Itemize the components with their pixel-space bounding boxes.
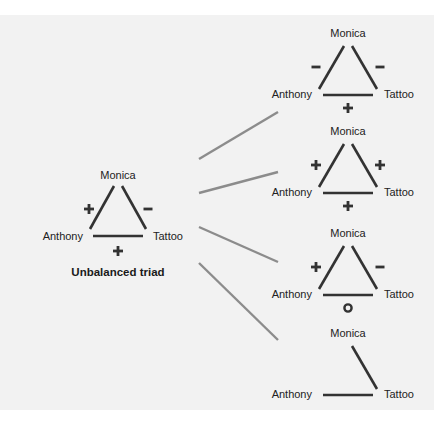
- sign-left-edge-plus-icon: [311, 160, 321, 170]
- outcome-triad: MonicaAnthonyTattoo: [272, 27, 414, 113]
- edge-left: [90, 186, 114, 229]
- sign-left-edge-minus-icon: [312, 66, 321, 69]
- sign-left-edge-plus-icon: [311, 262, 321, 272]
- edge-right: [352, 346, 377, 389]
- node-label-left: Anthony: [43, 230, 84, 242]
- sign-base-plus-icon: [343, 201, 353, 211]
- sign-right-edge-minus-icon: [376, 266, 385, 269]
- node-label-left: Anthony: [272, 186, 313, 198]
- sign-base-plus-icon: [113, 246, 123, 256]
- sign-base-zero-icon: [344, 304, 351, 311]
- edge-left: [319, 46, 344, 89]
- outcome-triad: MonicaAnthonyTattoo: [272, 327, 414, 400]
- node-label-right: Tattoo: [384, 186, 414, 198]
- sign-base-plus-icon: [343, 103, 353, 113]
- sign-right-edge-minus-icon: [144, 208, 153, 211]
- outcome-triads: MonicaAnthonyTattooMonicaAnthonyTattooMo…: [272, 27, 414, 400]
- connector-line: [199, 172, 278, 193]
- edge-right: [352, 46, 377, 89]
- edge-right: [352, 246, 377, 289]
- outcome-triad: MonicaAnthonyTattoo: [272, 125, 414, 211]
- edge-right: [122, 186, 146, 229]
- edge-right: [352, 144, 377, 187]
- node-label-right: Tattoo: [384, 88, 414, 100]
- connector-line: [199, 227, 278, 262]
- triad-diagram: Monica Anthony Tattoo Unbalanced triad M…: [0, 0, 439, 421]
- sign-right-edge-minus-icon: [376, 66, 385, 69]
- node-label-left: Anthony: [272, 388, 313, 400]
- connector-line: [199, 112, 278, 159]
- node-label-top: Monica: [330, 125, 366, 137]
- connector-line: [199, 263, 278, 340]
- node-label-left: Anthony: [272, 88, 313, 100]
- connectors: [199, 112, 278, 340]
- node-label-left: Anthony: [272, 288, 313, 300]
- node-label-top: Monica: [330, 27, 366, 39]
- sign-left-edge-plus-icon: [84, 204, 94, 214]
- node-label-right: Tattoo: [384, 388, 414, 400]
- outcome-triad: MonicaAnthonyTattoo: [272, 227, 414, 312]
- node-label-top: Monica: [330, 327, 366, 339]
- node-label-right: Tattoo: [153, 230, 183, 242]
- source-triad: Monica Anthony Tattoo Unbalanced triad: [43, 169, 183, 278]
- sign-right-edge-plus-icon: [375, 160, 385, 170]
- edge-left: [319, 246, 344, 289]
- edge-left: [319, 144, 344, 187]
- node-label-right: Tattoo: [384, 288, 414, 300]
- node-label-top: Monica: [330, 227, 366, 239]
- node-label-top: Monica: [100, 169, 136, 181]
- source-title: Unbalanced triad: [71, 266, 164, 278]
